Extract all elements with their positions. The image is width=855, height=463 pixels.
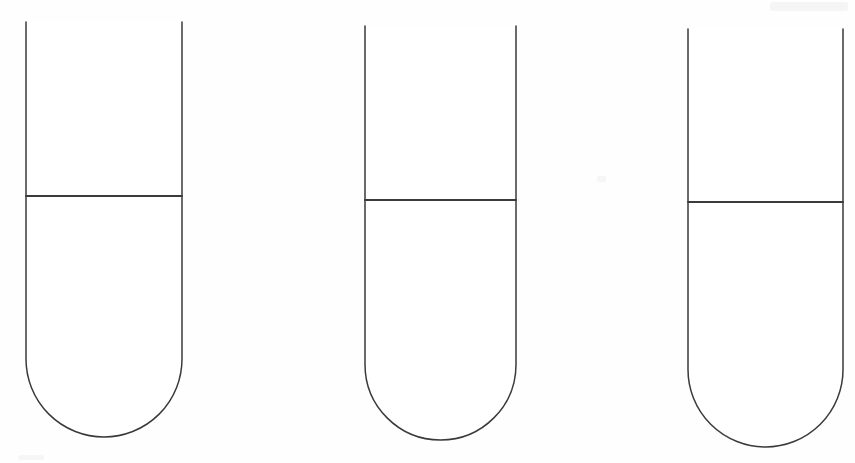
scan-speck-left-icon: [18, 455, 44, 460]
scan-speck-mid-icon: [597, 176, 606, 182]
diagram-svg: Tube 1 Tube 2 Tube 3: [0, 0, 855, 463]
tube-figure-2[interactable]: Tube 2: [365, 26, 516, 440]
tube-3-outline: [688, 29, 843, 447]
tube-figure-1[interactable]: Tube 1: [26, 22, 182, 437]
worksheet-canvas: Three partitioned tube diagrams Tube 1 T…: [0, 0, 855, 463]
tube-figure-3[interactable]: Tube 3: [688, 29, 843, 447]
tube-1-outline: [26, 22, 182, 437]
tube-2-outline: [365, 26, 516, 440]
scan-smudge-top-right-icon: [770, 2, 848, 11]
